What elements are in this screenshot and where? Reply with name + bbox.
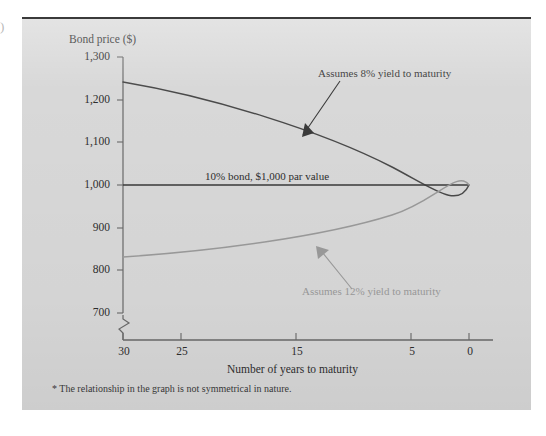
y-tick-label-1200: 1,200 <box>42 93 110 105</box>
y-tick-label-1300: 1,300 <box>42 50 110 62</box>
annotation-label-12-percent: Assumes 12% yield to maturity <box>302 285 441 297</box>
y-axis-break-icon <box>119 315 129 340</box>
x-tick-label-30: 30 <box>116 345 132 357</box>
y-tick-marks <box>117 57 123 313</box>
y-tick-label-1100: 1,100 <box>42 135 110 147</box>
chart-plot-area <box>22 19 531 410</box>
series-line-12-percent <box>123 181 469 257</box>
annotation-label-par-value: 10% bond, $1,000 par value <box>205 170 329 182</box>
figure-footnote: * The relationship in the graph is not s… <box>52 383 291 394</box>
x-tick-marks <box>123 333 469 340</box>
chart-panel: Bond price ($) 1,300 1,200 1,100 1,000 9… <box>22 19 531 410</box>
x-axis-title: Number of years to maturity <box>227 363 358 375</box>
y-axis-title: Bond price ($) <box>69 33 136 45</box>
y-tick-label-800: 800 <box>42 263 110 275</box>
annotation-arrow-12-percent <box>316 246 352 289</box>
y-tick-label-700: 700 <box>42 306 110 318</box>
figure-root: ) <box>0 0 546 436</box>
x-tick-label-25: 25 <box>174 345 190 357</box>
x-tick-label-0: 0 <box>462 345 478 357</box>
annotation-arrow-8-percent <box>302 81 340 137</box>
page-edge-glyph: ) <box>0 20 7 34</box>
x-tick-label-5: 5 <box>404 345 420 357</box>
x-tick-label-15: 15 <box>289 345 305 357</box>
y-tick-label-900: 900 <box>42 221 110 233</box>
y-tick-label-1000: 1,000 <box>42 178 110 190</box>
annotation-label-8-percent: Assumes 8% yield to maturity <box>318 67 451 79</box>
